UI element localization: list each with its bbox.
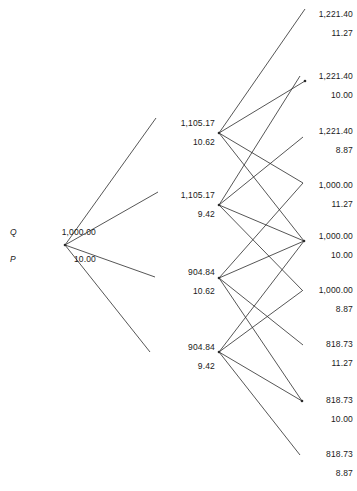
node-s2-1-quantity: 1,221.40: [288, 71, 353, 81]
node-s1-0-price: 10.62: [140, 137, 215, 147]
node-s1-1-price: 9.42: [140, 209, 215, 219]
node-s2-1-price: 10.00: [288, 90, 353, 100]
node-s2-4-price: 10.00: [288, 250, 353, 260]
node-s2-7-quantity: 818.73: [288, 395, 353, 405]
node-s1-3-quantity: 904.84: [140, 342, 215, 352]
node-s2-6-quantity: 818.73: [288, 339, 353, 349]
node-s2-5-quantity: 1,000.00: [288, 285, 353, 295]
node-s2-3-price: 11.27: [288, 199, 353, 209]
node-s2-8-price: 8.87: [288, 468, 353, 478]
node-s2-2-price: 8.87: [288, 145, 353, 155]
node-s2-7-price: 10.00: [288, 414, 353, 424]
node-s2-5-price: 8.87: [288, 304, 353, 314]
node-s1-2-quantity: 904.84: [140, 267, 215, 277]
node-s1-1-quantity: 1,105.17: [140, 190, 215, 200]
node-s2-2-quantity: 1,221.40: [288, 126, 353, 136]
node-s1-3-price: 9.42: [140, 361, 215, 371]
node-s1-0-quantity: 1,105.17: [140, 118, 215, 128]
node-s2-3-quantity: 1,000.00: [288, 180, 353, 190]
root-quantity-value: 1,000.00: [0, 227, 96, 237]
node-s2-8-quantity: 818.73: [288, 449, 353, 459]
node-s2-4-quantity: 1,000.00: [288, 231, 353, 241]
node-s2-0-quantity: 1,221.40: [288, 9, 353, 19]
node-s1-2-price: 10.62: [140, 286, 215, 296]
node-s2-6-price: 11.27: [288, 358, 353, 368]
node-s2-0-price: 11.27: [288, 28, 353, 38]
root-price-value: 10.00: [0, 254, 96, 264]
